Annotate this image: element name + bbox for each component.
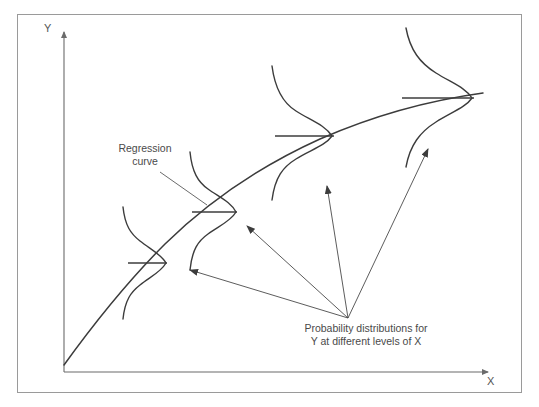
figure-canvas: Y X Regression curve <box>0 0 539 407</box>
y-axis-label: Y <box>44 22 52 34</box>
distributions-caption-line2: Y at different levels of X <box>311 335 422 347</box>
distributions-caption-line1: Probability distributions for <box>304 322 428 334</box>
figure-border <box>18 15 522 393</box>
regression-label-line2: curve <box>132 155 158 167</box>
x-axis-label: X <box>487 375 495 387</box>
regression-distribution-figure: Y X Regression curve <box>0 0 539 407</box>
regression-label-line1: Regression <box>118 142 171 154</box>
